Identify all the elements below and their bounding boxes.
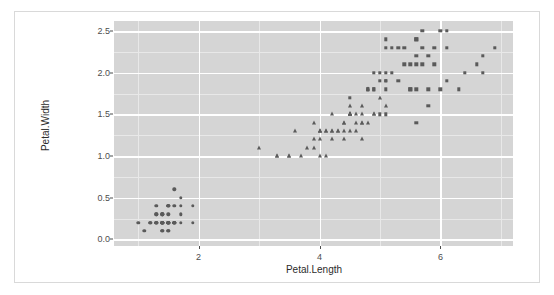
gridline-major-horizontal	[114, 239, 513, 241]
data-point-virginica	[481, 54, 484, 57]
data-point-versicolor	[360, 104, 364, 108]
x-tick-label: 6	[425, 252, 455, 262]
y-tick-mark	[110, 197, 113, 198]
y-tick-label: 1.5	[70, 109, 110, 119]
data-point-versicolor	[293, 129, 297, 133]
data-point-versicolor	[354, 112, 358, 116]
data-point-versicolor	[330, 112, 334, 116]
gridline-minor-horizontal	[114, 219, 513, 220]
data-point-virginica	[384, 88, 387, 91]
data-point-setosa	[173, 221, 176, 224]
data-point-virginica	[415, 121, 418, 124]
data-point-virginica	[445, 46, 448, 49]
data-point-virginica	[396, 46, 399, 49]
x-axis-title: Petal.Length	[114, 264, 514, 275]
data-point-versicolor	[318, 137, 322, 141]
x-tick-mark	[440, 246, 441, 249]
data-point-virginica	[384, 46, 387, 49]
data-point-virginica	[384, 71, 387, 74]
data-point-virginica	[421, 29, 424, 32]
y-tick-mark	[110, 31, 113, 32]
data-point-setosa	[179, 213, 182, 216]
data-point-setosa	[167, 221, 170, 224]
data-point-virginica	[427, 104, 430, 107]
data-point-setosa	[136, 221, 139, 224]
data-point-versicolor	[342, 129, 346, 133]
data-point-virginica	[402, 63, 405, 66]
data-point-virginica	[421, 63, 424, 66]
data-point-versicolor	[318, 154, 322, 158]
data-point-virginica	[445, 79, 448, 82]
data-point-virginica	[390, 71, 393, 74]
data-point-versicolor	[354, 120, 358, 124]
data-point-versicolor	[360, 137, 364, 141]
data-point-setosa	[161, 213, 164, 216]
y-tick-mark	[110, 239, 113, 240]
data-point-virginica	[372, 88, 375, 91]
x-tick-label: 4	[305, 252, 335, 262]
data-point-versicolor	[287, 154, 291, 158]
data-point-virginica	[427, 88, 430, 91]
data-point-versicolor	[299, 154, 303, 158]
scatter-plot-figure: Petal.Width Petal.Length 0.00.51.01.52.0…	[15, 12, 539, 282]
data-point-versicolor	[354, 129, 358, 133]
gridline-major-horizontal	[114, 31, 513, 33]
data-point-setosa	[143, 229, 146, 232]
data-point-virginica	[366, 88, 369, 91]
data-point-versicolor	[372, 112, 376, 116]
data-point-versicolor	[324, 154, 328, 158]
gridline-major-vertical	[199, 21, 201, 246]
data-point-versicolor	[378, 95, 382, 99]
data-point-virginica	[415, 54, 418, 57]
data-point-virginica	[409, 88, 412, 91]
data-point-virginica	[402, 46, 405, 49]
y-axis-title: Petal.Width	[40, 76, 51, 176]
data-point-virginica	[415, 88, 418, 91]
data-point-setosa	[155, 213, 158, 216]
data-point-virginica	[396, 79, 399, 82]
data-point-virginica	[409, 63, 412, 66]
data-point-versicolor	[318, 129, 322, 133]
data-point-setosa	[179, 221, 182, 224]
data-point-versicolor	[312, 137, 316, 141]
x-tick-mark	[320, 246, 321, 249]
data-point-versicolor	[312, 120, 316, 124]
data-point-versicolor	[384, 104, 388, 108]
y-tick-label: 2.5	[70, 26, 110, 36]
y-tick-label: 1.0	[70, 151, 110, 161]
data-point-versicolor	[348, 112, 352, 116]
data-point-setosa	[167, 229, 170, 232]
data-point-versicolor	[360, 120, 364, 124]
data-point-virginica	[433, 63, 436, 66]
data-point-virginica	[439, 88, 442, 91]
data-point-virginica	[378, 71, 381, 74]
data-point-versicolor	[330, 129, 334, 133]
gridline-major-horizontal	[114, 156, 513, 158]
gridline-minor-vertical	[138, 21, 139, 246]
data-point-virginica	[348, 96, 351, 99]
data-point-versicolor	[257, 145, 261, 149]
data-point-setosa	[149, 221, 152, 224]
y-tick-label: 0.5	[70, 193, 110, 203]
y-tick-label: 2.0	[70, 68, 110, 78]
data-point-virginica	[481, 71, 484, 74]
data-point-setosa	[155, 221, 158, 224]
data-point-setosa	[167, 204, 170, 207]
data-point-virginica	[378, 113, 381, 116]
data-point-virginica	[372, 71, 375, 74]
gridline-major-horizontal	[114, 114, 513, 116]
data-point-virginica	[445, 29, 448, 32]
data-point-versicolor	[275, 154, 279, 158]
data-point-virginica	[421, 46, 424, 49]
gridline-major-horizontal	[114, 198, 513, 200]
y-tick-mark	[110, 72, 113, 73]
data-point-virginica	[378, 79, 381, 82]
data-point-setosa	[191, 204, 194, 207]
data-point-virginica	[493, 46, 496, 49]
data-point-versicolor	[305, 145, 309, 149]
data-point-versicolor	[360, 112, 364, 116]
data-point-virginica	[384, 38, 387, 41]
data-point-versicolor	[336, 129, 340, 133]
data-point-versicolor	[342, 137, 346, 141]
gridline-minor-vertical	[259, 21, 260, 246]
